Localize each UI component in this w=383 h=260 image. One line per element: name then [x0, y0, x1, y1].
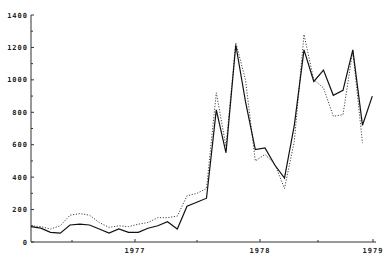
x-tick-label: 1978: [250, 247, 271, 255]
y-axis: 0200400600800100012001400: [7, 12, 34, 247]
y-tick-label: 1000: [7, 76, 28, 84]
x-axis: 197719781979: [31, 239, 383, 255]
y-tick-label: 400: [12, 174, 28, 182]
x-tick-label: 1977: [125, 247, 146, 255]
y-tick-label: 800: [12, 109, 28, 117]
y-tick-label: 600: [12, 141, 28, 149]
y-tick-label: 200: [12, 206, 28, 214]
y-tick-label: 1200: [7, 44, 28, 52]
x-tick-label: 1979: [363, 247, 383, 255]
line-chart: 0200400600800100012001400 197719781979: [0, 0, 383, 260]
dotted-series-line: [31, 35, 363, 230]
solid-series-line: [31, 45, 372, 233]
y-tick-label: 0: [23, 239, 28, 247]
y-tick-label: 1400: [7, 12, 28, 20]
